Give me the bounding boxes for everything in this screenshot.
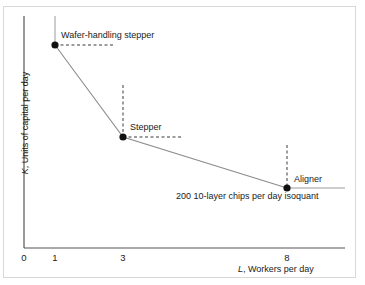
x-tick-label-8: 8 <box>277 253 297 263</box>
isoquant-caption: 200 10-layer chips per day isoquant <box>176 192 319 201</box>
x-tick-label-3: 3 <box>113 253 133 263</box>
point-label-stepper: Stepper <box>130 123 162 132</box>
point-label-aligner: Aligner <box>294 175 322 184</box>
isoquant-line <box>55 45 287 188</box>
y-axis-title: K, Units of capital per day <box>20 48 30 198</box>
y-axis-variable: K <box>20 168 30 174</box>
data-point-wafer <box>51 41 58 48</box>
plot-canvas <box>0 0 365 285</box>
data-point-stepper <box>119 133 126 140</box>
y-axis-title-text: , Units of capital per day <box>20 72 30 169</box>
x-axis-title: L, Workers per day <box>238 264 314 274</box>
x-tick-label-1: 1 <box>45 253 65 263</box>
isoquant-figure: K, Units of capital per day L, Workers p… <box>0 0 365 285</box>
x-axis-title-text: , Workers per day <box>243 264 314 274</box>
x-tick-label-0: 0 <box>14 253 34 263</box>
point-label-wafer: Wafer-handling stepper <box>61 31 154 40</box>
